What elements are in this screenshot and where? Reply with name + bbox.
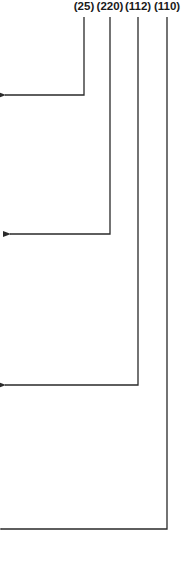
leader-arrow-220 [10,17,110,234]
leader-arrow-25 [5,17,84,95]
leader-arrow-112 [5,17,138,385]
leader-lines [0,0,191,571]
